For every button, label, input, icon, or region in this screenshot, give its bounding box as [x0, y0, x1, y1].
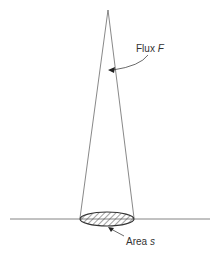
- flux-arrow: [113, 55, 148, 70]
- area-arrowhead-icon: [108, 227, 114, 232]
- diagram-svg: Flux F Area s: [0, 0, 217, 262]
- cone-left-edge: [80, 10, 108, 218]
- flux-area-diagram: Flux F Area s: [0, 0, 217, 262]
- area-ellipse: [80, 212, 134, 226]
- flux-arrowhead-icon: [108, 67, 115, 73]
- cone-right-edge: [108, 10, 134, 218]
- area-label: Area s: [126, 236, 155, 247]
- area-arrow: [111, 229, 124, 236]
- flux-label: Flux F: [136, 43, 165, 54]
